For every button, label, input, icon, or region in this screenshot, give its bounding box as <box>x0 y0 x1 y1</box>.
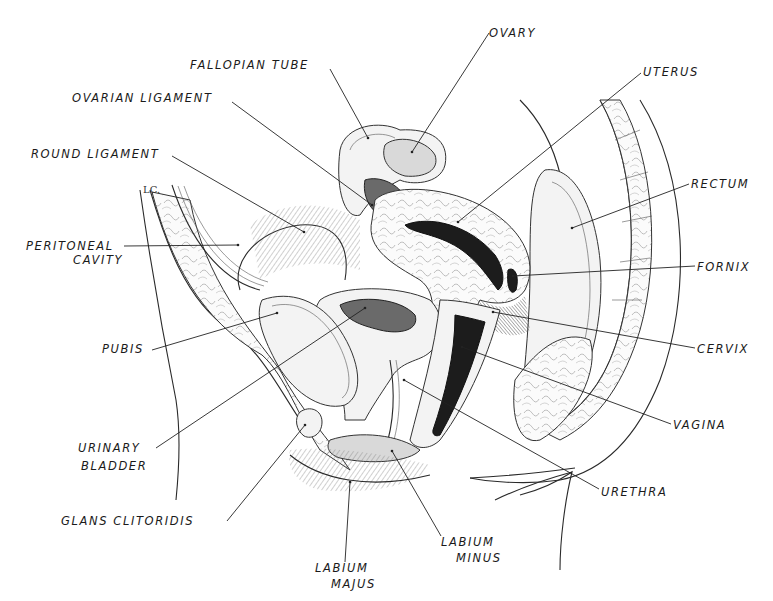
label-peritoneal-cavity-2: CAVITY <box>73 253 123 267</box>
glans-clitoridis-shape <box>297 409 322 437</box>
label-labium-majus-2: MAJUS <box>331 577 376 591</box>
leader-endpoint <box>457 221 460 224</box>
label-urinary-bladder-2: BLADDER <box>81 459 147 473</box>
label-round-ligament: ROUND LIGAMENT <box>31 147 159 161</box>
leader-endpoint <box>237 244 240 247</box>
label-rectum: RECTUM <box>691 177 749 191</box>
leader-endpoint <box>492 311 495 314</box>
leader-line-peritoneal-cavity <box>124 245 238 246</box>
leader-endpoint <box>349 481 352 484</box>
label-vagina: VAGINA <box>673 418 726 432</box>
leader-endpoint <box>367 137 370 140</box>
label-glans-clitoridis: GLANS CLITORIDIS <box>61 514 194 528</box>
label-fallopian-tube: FALLOPIAN TUBE <box>190 58 309 72</box>
leader-endpoint <box>276 312 279 315</box>
anatomy-drawing: LC. <box>140 100 680 570</box>
leader-endpoint <box>303 231 306 234</box>
label-ovarian-ligament: OVARIAN LIGAMENT <box>72 91 213 105</box>
anatomy-diagram: LC. FALLOPIAN TUBEOVARYOVARIAN LIGAMENTU… <box>0 0 773 601</box>
leader-endpoint <box>512 275 515 278</box>
leader-endpoint <box>364 307 367 310</box>
leader-line-glans-clitoridis <box>227 425 305 521</box>
leader-endpoint <box>403 379 406 382</box>
label-uterus: UTERUS <box>643 65 699 79</box>
artist-signature: LC. <box>143 184 160 195</box>
label-urethra: URETHRA <box>601 485 667 499</box>
label-labium-minus: LABIUM <box>441 535 495 549</box>
label-labium-majus: LABIUM <box>315 561 369 575</box>
leader-endpoint <box>304 424 307 427</box>
leader-line-ovary <box>412 33 489 152</box>
label-cervix: CERVIX <box>697 342 749 356</box>
posterior-fornix <box>508 269 518 292</box>
leader-endpoint <box>461 346 464 349</box>
label-labium-minus-2: MINUS <box>456 551 502 565</box>
peritoneal-shading <box>250 206 360 280</box>
label-fornix: FORNIX <box>697 260 750 274</box>
leader-line-labium-majus <box>345 482 350 562</box>
leader-endpoint <box>411 151 414 154</box>
gluteal-fold <box>495 472 572 500</box>
label-urinary-bladder: URINARY <box>78 441 140 455</box>
leader-endpoint <box>371 204 374 207</box>
perineum-line <box>470 468 575 478</box>
label-pubis: PUBIS <box>102 342 144 356</box>
label-peritoneal-cavity: PERITONEAL <box>26 239 114 253</box>
leader-endpoint <box>391 450 394 453</box>
leader-line-fallopian-tube <box>330 69 368 138</box>
label-ovary: OVARY <box>489 26 536 40</box>
leader-endpoint <box>571 227 574 230</box>
